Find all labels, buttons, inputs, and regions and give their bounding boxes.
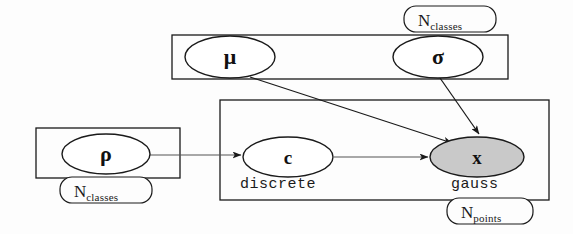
plate-params-label-var: N [418,11,430,30]
plate-params-label-sub: classes [430,20,462,32]
plate-points-label-var: N [461,203,473,222]
node-x-label: x [452,148,502,167]
node-rho-label: ρ [81,143,131,165]
plate-rho-label-sub: classes [86,191,118,203]
node-c-label: c [263,148,313,167]
discrete-distribution-label: discrete [240,177,316,192]
plate-rho-label-var: N [74,182,86,201]
edge-mu-to-x [250,77,452,143]
plate-points-label: Npoints [461,204,501,224]
diagram-canvas: μ σ ρ c x discrete gauss Nclasses Npoint… [0,0,573,234]
node-sigma-label: σ [413,46,463,68]
node-mu-label: μ [205,46,255,68]
plate-rho-label: Nclasses [74,183,118,203]
gauss-distribution-label: gauss [451,177,499,192]
plate-params-label: Nclasses [418,12,462,32]
edge-sigma-to-x [440,78,479,134]
plate-points-label-sub: points [473,212,501,224]
